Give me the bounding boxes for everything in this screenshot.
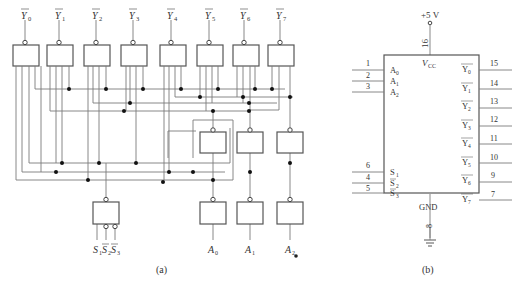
svg-text:S: S [93,244,98,255]
supply-terminal [428,21,432,25]
vcc-pin-number: 16 [420,39,430,49]
svg-text:2: 2 [468,106,471,112]
svg-text:Y: Y [167,10,174,21]
gate-y7 [268,45,294,66]
svg-text:7: 7 [283,15,287,22]
svg-text:3: 3 [396,193,399,199]
svg-text:0: 0 [28,15,31,22]
svg-text:2: 2 [366,71,370,80]
svg-text:S: S [390,178,395,188]
figure-a: Y0 Y1 Y2 Y3 Y4 Y5 Y6 Y7 [13,9,303,276]
svg-text:Y: Y [276,10,283,21]
svg-text:Y: Y [92,10,99,21]
svg-text:A: A [244,244,252,255]
gate-y2 [84,45,110,66]
svg-text:S: S [390,188,395,198]
svg-text:1: 1 [252,250,255,256]
svg-text:S: S [111,244,116,255]
output-labels: Y0 Y1 Y2 Y3 Y4 Y5 Y6 Y7 [21,9,287,22]
svg-text:Y: Y [205,10,212,21]
svg-text:14: 14 [490,79,498,88]
gate-y6 [233,45,259,66]
svg-text:7: 7 [468,199,471,205]
inversion-bubble [278,40,282,44]
supply-label: +5 V [421,10,440,20]
svg-text:4: 4 [366,173,370,182]
input-buffers [93,197,303,228]
label-y5: Y5 [205,9,215,22]
svg-text:6: 6 [468,180,471,186]
gate-y5 [197,45,223,66]
gate-y1 [47,45,73,66]
svg-text:A: A [284,244,292,255]
svg-text:3: 3 [366,82,370,91]
label-y3: Y3 [129,9,139,22]
svg-text:Y: Y [21,10,28,21]
inversion-bubble [242,40,246,44]
svg-text:2: 2 [396,183,399,189]
svg-text:9: 9 [491,171,495,180]
svg-text:CC: CC [428,63,436,69]
inversion-bubble [94,40,98,44]
svg-text:10: 10 [490,153,498,162]
svg-text:Y: Y [129,10,136,21]
inversion-bubble [131,40,135,44]
inversion-bubble [207,40,211,44]
gate-y0 [13,45,39,66]
svg-text:3: 3 [136,15,139,22]
svg-text:15: 15 [490,59,498,68]
svg-text:1: 1 [366,59,370,68]
output-gates [13,20,294,66]
label-y4: Y4 [167,9,178,22]
enable-labels: S1 S2 S3 [93,244,120,256]
svg-text:0: 0 [468,69,471,75]
svg-text:S: S [102,244,107,255]
svg-text:S: S [390,167,395,177]
ground-icon [424,240,436,246]
svg-text:1: 1 [396,81,399,87]
svg-text:6: 6 [247,15,251,22]
svg-text:A: A [207,244,215,255]
label-y1: Y1 [55,9,65,22]
svg-text:3: 3 [468,125,471,131]
buffer-a2 [277,202,303,224]
svg-text:12: 12 [490,115,498,124]
svg-text:13: 13 [490,97,498,106]
label-y7: Y7 [276,9,287,22]
gnd-label: GND [419,202,437,212]
svg-text:4: 4 [468,143,471,149]
buffer-a1 [237,202,263,224]
cursor-mark [294,254,298,258]
svg-text:3: 3 [117,250,120,256]
caption-b: (b) [422,264,434,276]
svg-text:Y: Y [240,10,247,21]
inversion-bubble [169,40,173,44]
address-labels: A0 A1 A2 [207,244,298,258]
gate-y4 [160,45,186,66]
decoder-diagram: Y0 Y1 Y2 Y3 Y4 Y5 Y6 Y7 [0,0,515,283]
svg-text:1: 1 [396,172,399,178]
svg-text:5: 5 [468,162,471,168]
svg-text:Y: Y [55,10,62,21]
address-inverters [200,128,303,153]
label-y0: Y0 [21,9,31,22]
svg-text:0: 0 [215,250,218,256]
gnd-pin-number: 8 [425,224,434,228]
gate-y3 [121,45,147,66]
svg-text:4: 4 [174,15,178,22]
inversion-bubble [57,40,61,44]
inversion-bubble [23,40,27,44]
buffer-a0 [200,202,226,224]
caption-a: (a) [156,264,167,276]
label-y6: Y6 [240,9,251,22]
svg-text:7: 7 [491,190,495,199]
svg-text:6: 6 [366,161,370,170]
label-y2: Y2 [92,9,102,22]
figure-b: +5 V 16 V CC 1 2 3 6 4 5 A0 A1 A2 S1 S2 [352,10,512,276]
svg-text:1: 1 [62,15,65,22]
svg-text:2: 2 [396,92,399,98]
svg-text:5: 5 [366,184,370,193]
svg-text:2: 2 [99,15,102,22]
svg-text:0: 0 [396,70,399,76]
svg-text:11: 11 [490,134,498,143]
